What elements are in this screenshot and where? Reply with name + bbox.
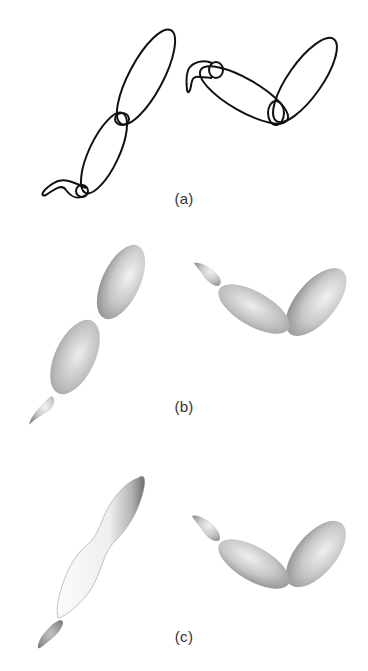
left-upper-segment-outline (106, 22, 186, 132)
right-lower-ellipsoid-c (211, 529, 297, 598)
left-lower-ellipsoid (40, 312, 110, 401)
panel-a: (a) (0, 0, 368, 220)
outline-limbs-figure (0, 0, 368, 220)
caption-b: (b) (0, 398, 368, 415)
right-upper-segment-outline (262, 29, 347, 130)
panel-c: (c) (0, 450, 368, 671)
caption-c: (c) (0, 628, 368, 645)
right-foot-ellipsoid (194, 263, 221, 286)
right-lower-ellipsoid (211, 274, 297, 343)
caption-a: (a) (0, 190, 368, 207)
right-foot-ellipsoid-c (192, 516, 220, 542)
left-upper-ellipsoid (87, 238, 155, 327)
right-upper-ellipsoid (274, 258, 357, 347)
left-blended-limb (57, 476, 144, 618)
right-foot-joint-outline (209, 62, 223, 78)
shaded-ellipsoids-figure (0, 220, 368, 450)
panel-b: (b) (0, 220, 368, 450)
